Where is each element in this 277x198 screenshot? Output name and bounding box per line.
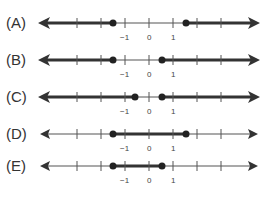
closed-dot bbox=[159, 57, 166, 64]
closed-dot bbox=[183, 20, 190, 27]
closed-dot bbox=[183, 131, 190, 138]
option-b-label: (B) bbox=[6, 51, 26, 68]
tick-label: 0 bbox=[147, 144, 152, 153]
tick-label: −1 bbox=[120, 70, 130, 79]
option-a[interactable]: (A) −1 0 1 bbox=[6, 14, 260, 42]
closed-dot bbox=[159, 163, 166, 170]
closed-dot bbox=[110, 131, 117, 138]
option-d-label: (D) bbox=[6, 125, 27, 142]
option-b[interactable]: (B) −1 0 1 bbox=[6, 51, 260, 79]
option-c-label: (C) bbox=[6, 88, 27, 105]
option-e[interactable]: (E) −1 0 1 bbox=[6, 157, 258, 185]
closed-dot bbox=[159, 94, 166, 101]
tick-label: 1 bbox=[171, 70, 176, 79]
option-d[interactable]: (D) −1 0 1 bbox=[6, 125, 258, 153]
tick-label: −1 bbox=[120, 176, 130, 185]
tick-label: −1 bbox=[120, 33, 130, 42]
tick-label: −1 bbox=[120, 107, 130, 116]
tick-label: 1 bbox=[171, 144, 176, 153]
tick-label: 0 bbox=[147, 176, 152, 185]
tick-label: −1 bbox=[120, 144, 130, 153]
number-line-options: (A) −1 0 1 (B) −1 0 bbox=[0, 0, 277, 198]
closed-dot bbox=[110, 57, 117, 64]
tick-label: 0 bbox=[147, 70, 152, 79]
closed-dot bbox=[132, 94, 139, 101]
option-e-label: (E) bbox=[6, 157, 26, 174]
option-a-label: (A) bbox=[6, 14, 26, 31]
tick-label: 1 bbox=[171, 107, 176, 116]
option-c[interactable]: (C) −1 0 1 bbox=[6, 88, 260, 116]
closed-dot bbox=[110, 163, 117, 170]
tick-label: 0 bbox=[147, 33, 152, 42]
closed-dot bbox=[110, 20, 117, 27]
tick-label: 0 bbox=[147, 107, 152, 116]
tick-label: 1 bbox=[171, 176, 176, 185]
tick-label: 1 bbox=[171, 33, 176, 42]
